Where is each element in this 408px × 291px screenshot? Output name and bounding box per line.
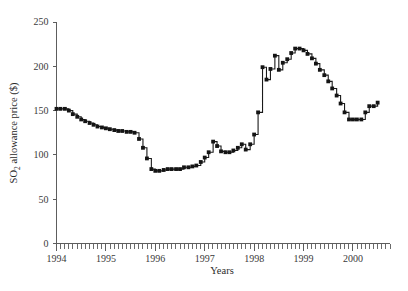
data-point-marker <box>96 125 100 129</box>
data-point-marker <box>79 118 83 122</box>
data-point-marker <box>162 168 166 172</box>
series-markers-so2-allowance-price <box>55 47 380 173</box>
y-axis-ticks <box>53 22 57 244</box>
data-point-marker <box>75 115 79 119</box>
data-point-marker <box>347 118 351 122</box>
y-axis-title-prefix: SO <box>8 170 19 184</box>
data-point-marker <box>244 148 248 152</box>
so2-allowance-price-line-chart: 050100150200250 199419951996199719981999… <box>0 0 408 291</box>
y-axis-title: SO2 allowance price ($) <box>8 82 22 183</box>
data-point-marker <box>228 150 232 154</box>
data-point-marker <box>248 142 252 146</box>
data-point-marker <box>174 167 178 171</box>
data-point-marker <box>203 156 207 160</box>
y-tick-label: 50 <box>39 194 49 205</box>
data-point-marker <box>88 121 92 125</box>
data-point-marker <box>145 157 149 161</box>
data-point-marker <box>322 73 326 77</box>
data-point-marker <box>92 123 96 127</box>
data-point-marker <box>240 142 244 146</box>
x-tick-label: 1994 <box>47 253 67 264</box>
data-point-marker <box>314 62 318 66</box>
data-point-marker <box>194 164 198 168</box>
y-tick-label: 150 <box>34 105 49 116</box>
data-point-marker <box>207 150 211 154</box>
data-point-marker <box>120 129 124 133</box>
data-point-marker <box>137 137 141 141</box>
x-tick-label: 1995 <box>96 253 116 264</box>
series-line-so2-allowance-price <box>57 49 378 171</box>
x-axis-tick-labels: 1994199519961997199819992000 <box>47 253 363 264</box>
data-point-marker <box>59 107 63 111</box>
data-point-marker <box>231 149 235 153</box>
data-point-marker <box>359 118 363 122</box>
data-point-marker <box>363 110 367 114</box>
data-point-marker <box>157 169 161 173</box>
data-point-marker <box>293 47 297 51</box>
data-point-marker <box>116 129 120 133</box>
data-point-marker <box>330 87 334 91</box>
data-point-marker <box>190 165 194 169</box>
data-point-marker <box>298 47 302 51</box>
data-point-marker <box>215 144 219 148</box>
data-point-marker <box>256 110 260 114</box>
svg-text:SO2 allowance price ($): SO2 allowance price ($) <box>8 82 22 183</box>
data-point-marker <box>187 165 191 169</box>
x-tick-label: 1999 <box>294 253 314 264</box>
y-tick-label: 0 <box>44 238 49 249</box>
data-point-marker <box>335 94 339 98</box>
data-point-marker <box>199 160 203 164</box>
data-point-marker <box>285 57 289 61</box>
data-point-marker <box>182 165 186 169</box>
data-point-marker <box>343 110 347 114</box>
data-point-marker <box>310 56 314 60</box>
data-point-marker <box>252 133 256 137</box>
data-point-marker <box>153 169 157 173</box>
data-point-marker <box>269 67 273 71</box>
data-point-marker <box>306 52 310 56</box>
y-axis-title-suffix: allowance price ($) <box>8 82 20 166</box>
data-point-marker <box>224 150 228 154</box>
data-point-marker <box>219 149 223 153</box>
data-point-marker <box>71 112 75 116</box>
data-point-marker <box>372 104 376 108</box>
y-tick-label: 100 <box>34 149 49 160</box>
data-point-marker <box>281 61 285 65</box>
x-axis-title: Years <box>210 265 233 276</box>
data-point-marker <box>125 130 129 134</box>
data-point-marker <box>261 65 265 69</box>
data-point-marker <box>149 167 153 171</box>
data-point-marker <box>273 54 277 58</box>
x-tick-label: 1998 <box>244 253 264 264</box>
x-tick-label: 1996 <box>145 253 165 264</box>
data-point-marker <box>326 79 330 83</box>
data-point-marker <box>277 68 281 72</box>
data-point-marker <box>289 51 293 55</box>
data-point-marker <box>339 102 343 106</box>
chart-figure: 050100150200250 199419951996199719981999… <box>0 0 408 291</box>
y-tick-label: 250 <box>34 16 49 27</box>
data-point-marker <box>170 167 174 171</box>
data-point-marker <box>236 146 240 150</box>
data-point-marker <box>367 104 371 108</box>
data-point-marker <box>178 167 182 171</box>
data-point-marker <box>351 118 355 122</box>
data-point-marker <box>376 101 380 105</box>
y-tick-label: 200 <box>34 61 49 72</box>
data-point-marker <box>67 109 71 113</box>
data-point-marker <box>211 140 215 144</box>
data-point-marker <box>265 78 269 82</box>
data-point-marker <box>63 107 67 111</box>
data-point-marker <box>112 128 116 132</box>
y-axis-tick-labels: 050100150200250 <box>34 16 49 249</box>
data-point-marker <box>133 131 137 135</box>
data-point-marker <box>83 119 87 123</box>
data-point-marker <box>100 126 104 130</box>
data-point-marker <box>129 130 133 134</box>
data-point-marker <box>104 126 108 130</box>
x-tick-label: 1997 <box>195 253 215 264</box>
data-point-marker <box>302 48 306 52</box>
data-point-marker <box>141 146 145 150</box>
data-point-marker <box>55 107 59 111</box>
data-point-marker <box>108 127 112 131</box>
